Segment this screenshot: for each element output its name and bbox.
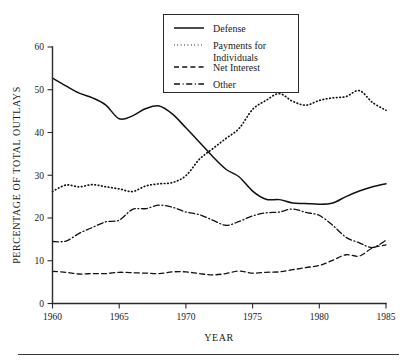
legend-label: Other [213, 79, 236, 90]
x-axis-title: YEAR [204, 332, 234, 343]
x-tick-label: 1970 [176, 312, 195, 322]
chart-legend: DefensePayments forIndividualsNet Intere… [164, 15, 299, 93]
outlays-line-chart: 0102030405060 196019651970197519801985 P… [0, 0, 417, 362]
y-tick-label: 30 [35, 171, 45, 181]
legend-label: Defense [213, 23, 246, 34]
plot-area [53, 78, 387, 275]
x-tick-label: 1985 [377, 312, 396, 322]
y-tick-label: 20 [35, 213, 45, 223]
y-tick-label: 60 [35, 42, 45, 52]
x-tick-label: 1960 [43, 312, 62, 322]
y-tick-label: 40 [35, 128, 45, 138]
x-axis-ticks: 196019651970197519801985 [43, 304, 396, 323]
legend-label: Net Interest [213, 62, 260, 73]
series-line-other [53, 205, 387, 247]
figure-container: 0102030405060 196019651970197519801985 P… [0, 0, 417, 362]
y-axis-title: PERCENTAGE OF TOTAL OUTLAYS [11, 86, 22, 264]
x-tick-label: 1965 [110, 312, 129, 322]
y-tick-label: 10 [35, 256, 45, 266]
y-tick-label: 50 [35, 85, 45, 95]
y-axis-ticks: 0102030405060 [35, 42, 53, 309]
series-line-payments-for-individuals [53, 90, 387, 191]
y-tick-label: 0 [39, 299, 44, 309]
x-tick-label: 1975 [243, 312, 262, 322]
series-line-net-interest [53, 245, 387, 275]
legend-label: Payments for [213, 40, 267, 51]
x-tick-label: 1980 [310, 312, 329, 322]
